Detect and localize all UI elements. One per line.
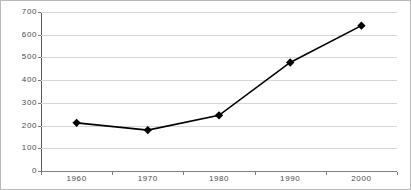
- x-axis-tick: [397, 172, 398, 175]
- y-axis-tick-label: 300: [3, 99, 37, 107]
- y-axis-tick-label: 0: [3, 167, 37, 175]
- y-axis-tick-label: 600: [3, 31, 37, 39]
- y-axis-tick-label: 700: [3, 8, 37, 16]
- gridline: [41, 171, 397, 172]
- x-axis-tick-label: 1990: [280, 175, 300, 183]
- data-point-marker: [357, 21, 365, 29]
- plot-area: [41, 12, 397, 171]
- y-axis-tick-labels: 0100200300400500600700: [1, 1, 37, 190]
- x-axis-tick-label: 1980: [209, 175, 229, 183]
- y-axis-tick-label: 500: [3, 53, 37, 61]
- x-axis-tick-labels: 19601970198019902000: [41, 175, 397, 190]
- data-series: [41, 12, 397, 171]
- data-point-marker: [72, 119, 80, 127]
- y-axis-tick-label: 400: [3, 76, 37, 84]
- line-chart: 0100200300400500600700 19601970198019902…: [0, 0, 411, 190]
- x-axis-tick-label: 1970: [138, 175, 158, 183]
- y-axis-tick-label: 200: [3, 122, 37, 130]
- series-markers: [72, 21, 365, 134]
- x-axis-tick-label: 2000: [351, 175, 371, 183]
- y-axis-tick-label: 100: [3, 144, 37, 152]
- data-point-marker: [144, 126, 152, 134]
- x-axis-tick-label: 1960: [66, 175, 86, 183]
